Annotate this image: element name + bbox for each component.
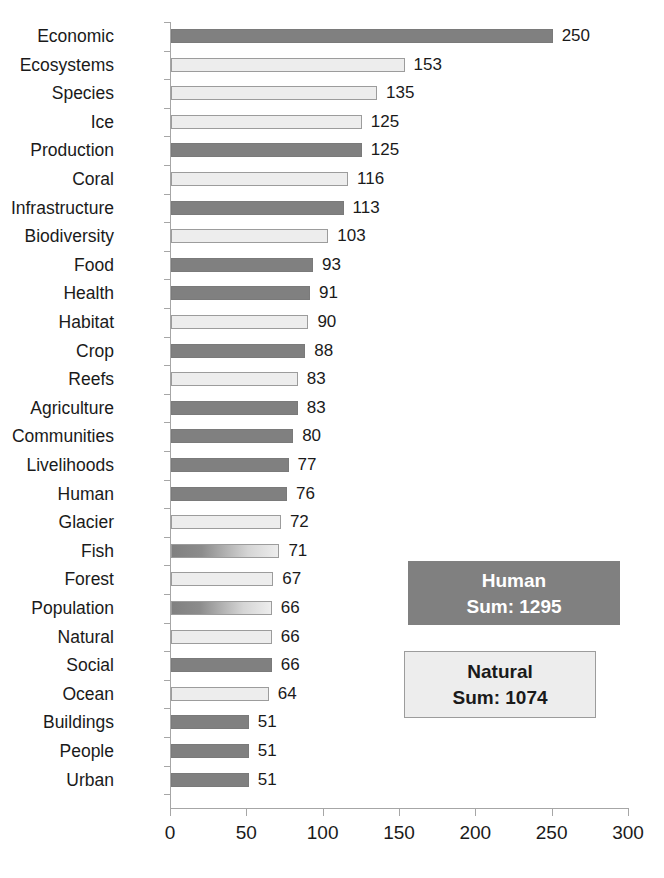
category-label: Coral (0, 165, 124, 193)
category-label: Production (0, 136, 124, 164)
bar-value-label: 72 (281, 508, 309, 536)
category-tick (164, 422, 171, 423)
bar-human (171, 286, 310, 300)
chart-row: Ecosystems153 (170, 51, 628, 79)
category-label: Fish (0, 537, 124, 565)
bar-value-label: 153 (405, 51, 442, 79)
category-tick (164, 623, 171, 624)
bar-value-label: 135 (377, 79, 414, 107)
chart-row: Agriculture83 (170, 394, 628, 422)
bar-value-label: 88 (305, 337, 333, 365)
chart-row: Ice125 (170, 108, 628, 136)
category-tick (164, 194, 171, 195)
category-label: Habitat (0, 308, 124, 336)
category-label: Infrastructure (0, 194, 124, 222)
bar-natural (171, 630, 272, 644)
category-label: Biodiversity (0, 222, 124, 250)
category-tick (164, 108, 171, 109)
chart-row: Glacier72 (170, 508, 628, 536)
chart-row: Crop88 (170, 337, 628, 365)
category-tick (164, 651, 171, 652)
value-tick-label: 200 (440, 822, 510, 844)
value-tick (552, 808, 553, 816)
category-label: Economic (0, 22, 124, 50)
category-tick (164, 766, 171, 767)
category-label: Reefs (0, 365, 124, 393)
category-tick (164, 279, 171, 280)
bar-natural (171, 572, 273, 586)
value-tick-label: 100 (288, 822, 358, 844)
category-tick (164, 737, 171, 738)
value-tick-label: 250 (517, 822, 587, 844)
category-label: Population (0, 594, 124, 622)
legend-human: Human Sum: 1295 (408, 561, 620, 625)
value-tick (246, 808, 247, 816)
category-label: Communities (0, 422, 124, 450)
category-label: Crop (0, 337, 124, 365)
bar-value-label: 51 (249, 708, 277, 736)
bar-value-label: 83 (298, 365, 326, 393)
category-tick (164, 51, 171, 52)
bar-natural (171, 58, 405, 72)
category-label: Ecosystems (0, 51, 124, 79)
bar-human (171, 258, 313, 272)
bar-value-label: 91 (310, 279, 338, 307)
legend-human-title: Human (408, 568, 620, 594)
bar-human (171, 487, 287, 501)
bar-value-label: 125 (362, 108, 399, 136)
chart-row: Human76 (170, 480, 628, 508)
bar-mixed (171, 601, 272, 615)
legend-natural: Natural Sum: 1074 (404, 651, 596, 718)
bar-natural (171, 687, 269, 701)
chart-row: Infrastructure113 (170, 194, 628, 222)
bar-human (171, 458, 289, 472)
category-label: Social (0, 651, 124, 679)
category-tick (164, 680, 171, 681)
bar-chart: Economic250Ecosystems153Species135Ice125… (0, 0, 664, 878)
legend-human-sum: Sum: 1295 (408, 594, 620, 620)
bar-human (171, 344, 305, 358)
bar-value-label: 66 (272, 623, 300, 651)
chart-row: Coral116 (170, 165, 628, 193)
category-tick (164, 594, 171, 595)
bar-human (171, 715, 249, 729)
chart-row: Natural66 (170, 623, 628, 651)
chart-row: Health91 (170, 279, 628, 307)
category-tick (164, 508, 171, 509)
bar-value-label: 77 (289, 451, 317, 479)
category-tick (164, 22, 171, 23)
category-tick (164, 308, 171, 309)
bar-natural (171, 315, 308, 329)
category-tick (164, 537, 171, 538)
bar-value-label: 71 (279, 537, 307, 565)
category-label: Human (0, 480, 124, 508)
category-tick (164, 165, 171, 166)
bar-value-label: 116 (348, 165, 384, 193)
bar-value-label: 80 (293, 422, 321, 450)
category-tick (164, 337, 171, 338)
value-tick-label: 50 (211, 822, 281, 844)
value-tick-label: 300 (593, 822, 663, 844)
chart-row: Communities80 (170, 422, 628, 450)
category-label: Urban (0, 766, 124, 794)
bar-natural (171, 372, 298, 386)
category-label: Natural (0, 623, 124, 651)
bar-value-label: 83 (298, 394, 326, 422)
category-tick (164, 136, 171, 137)
bar-value-label: 93 (313, 251, 341, 279)
category-label: People (0, 737, 124, 765)
chart-row: People51 (170, 737, 628, 765)
category-tick (164, 394, 171, 395)
bar-value-label: 250 (553, 22, 590, 50)
category-label: Ocean (0, 680, 124, 708)
value-tick (170, 808, 171, 816)
category-label: Species (0, 79, 124, 107)
category-tick (164, 365, 171, 366)
bar-human (171, 429, 293, 443)
category-tick (164, 794, 171, 795)
bar-value-label: 66 (272, 651, 300, 679)
chart-row: Food93 (170, 251, 628, 279)
category-tick (164, 480, 171, 481)
legend-natural-sum: Sum: 1074 (405, 685, 595, 711)
chart-row: Urban51 (170, 766, 628, 794)
